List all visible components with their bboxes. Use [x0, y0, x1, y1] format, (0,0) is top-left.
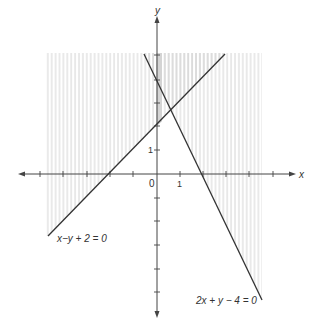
x-axis-label: x [298, 169, 305, 180]
origin-label: 0 [149, 178, 155, 189]
line2-equation-label: 2x + y − 4 = 0 [195, 295, 257, 306]
coordinate-plane: y x 0 1 1 x−y + 2 = 0 2x + y − 4 = 0 [0, 0, 318, 334]
y-axis-label: y [154, 5, 161, 16]
graph-figure: y x 0 1 1 x−y + 2 = 0 2x + y − 4 = 0 [0, 0, 318, 334]
line1-equation-label: x−y + 2 = 0 [56, 233, 107, 244]
x-tick-label-1: 1 [177, 179, 182, 189]
y-tick-label-1: 1 [148, 145, 153, 155]
